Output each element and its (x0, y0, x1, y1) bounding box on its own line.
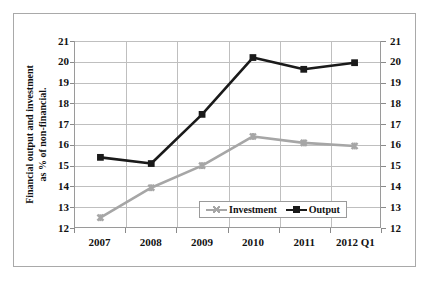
y-axis-tick-label-right: 12 (390, 223, 412, 234)
y-axis-tick-mark-right (381, 145, 386, 146)
series-layer (75, 41, 380, 227)
y-axis-tick-mark-right (381, 83, 386, 84)
x-axis-tick-mark (279, 228, 280, 233)
y-axis-tick-mark-right (381, 207, 386, 208)
y-axis-tick-label-left: 18 (47, 98, 69, 109)
data-point-marker (199, 111, 206, 118)
y-axis-tick-label-right: 21 (390, 36, 412, 47)
legend-symbol-investment (213, 206, 220, 213)
data-point-marker (351, 59, 358, 66)
y-axis-tick-mark-right (381, 124, 386, 125)
data-point-marker (148, 160, 155, 167)
legend-label-output: Output (309, 204, 340, 215)
y-axis-tick-label-right: 13 (390, 202, 412, 213)
y-axis-tick-label-right: 17 (390, 119, 412, 130)
y-axis-tick-mark-right (381, 166, 386, 167)
y-axis-tick-label-left: 20 (47, 56, 69, 67)
y-axis-tick-label-right: 19 (390, 77, 412, 88)
y-axis-tick-label-right: 20 (390, 56, 412, 67)
y-axis-tick-label-left: 21 (47, 36, 69, 47)
y-axis-tick-label-right: 18 (390, 98, 412, 109)
legend-marker-investment (206, 205, 227, 214)
y-axis-tick-label-right: 14 (390, 181, 412, 192)
chart-figure: Financial output and investment as % of … (0, 0, 431, 284)
y-axis-tick-label-right: 16 (390, 139, 412, 150)
series-line-output (100, 58, 354, 164)
x-axis-tick-mark (125, 228, 126, 233)
y-axis-tick-label-left: 16 (47, 139, 69, 150)
plot-area (74, 41, 381, 228)
y-axis-title: Financial output and investment as % of … (21, 41, 51, 228)
y-axis-tick-mark-right (381, 103, 386, 104)
y-axis-tick-label-left: 12 (47, 223, 69, 234)
x-axis-tick-mark (381, 228, 382, 233)
y-axis-tick-mark-right (381, 186, 386, 187)
data-point-marker (300, 66, 307, 73)
x-axis-tick-label: 2012 Q1 (320, 236, 390, 248)
chart-legend: Investment Output (199, 201, 347, 218)
y-axis-tick-label-left: 13 (47, 202, 69, 213)
y-axis-tick-label-left: 17 (47, 119, 69, 130)
legend-marker-output (286, 205, 307, 214)
y-axis-tick-label-left: 19 (47, 77, 69, 88)
y-axis-tick-mark-right (381, 62, 386, 63)
x-axis-tick-mark (330, 228, 331, 233)
x-axis-tick-mark (228, 228, 229, 233)
legend-item-investment: Investment (206, 204, 277, 215)
y-axis-tick-mark-right (381, 41, 386, 42)
legend-item-output: Output (286, 204, 340, 215)
data-point-marker (97, 154, 104, 161)
y-axis-title-line-1: Financial output and investment (23, 65, 36, 204)
data-point-marker (250, 54, 257, 61)
legend-label-investment: Investment (229, 204, 277, 215)
x-axis-tick-mark (176, 228, 177, 233)
y-axis-tick-label-right: 15 (390, 160, 412, 171)
y-axis-tick-label-left: 15 (47, 160, 69, 171)
y-axis-tick-label-left: 14 (47, 181, 69, 192)
x-axis-tick-mark (74, 228, 75, 233)
legend-symbol-output (293, 206, 300, 213)
